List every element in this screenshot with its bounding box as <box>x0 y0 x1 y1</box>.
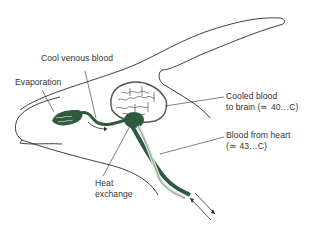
flow-arrow-down <box>195 193 215 214</box>
label-heat-exchange-line1: Heat <box>95 178 113 189</box>
head-outline-jaw <box>22 140 158 195</box>
label-cooled-blood-line2: to brain (≃ 40…C) <box>226 102 298 113</box>
label-blood-from-heart-line2: (≃ 43…C) <box>226 141 267 152</box>
label-evaporation: Evaporation <box>15 77 61 88</box>
label-cooled-blood-line1: Cooled blood <box>226 91 277 102</box>
leader-cooled-blood <box>165 97 224 106</box>
leader-heat-exchange <box>103 126 130 176</box>
label-cool-venous-blood: Cool venous blood <box>41 53 113 64</box>
leader-blood-heart <box>160 137 224 154</box>
leader-cool-venous <box>85 71 96 118</box>
head-diagram <box>0 0 322 234</box>
neck-vessels <box>132 126 190 198</box>
label-blood-from-heart-line1: Blood from heart <box>226 130 290 141</box>
leader-evaporation <box>42 90 54 112</box>
label-heat-exchange-line2: exchange <box>95 189 133 200</box>
diagram-canvas: Cool venous blood Evaporation Cooled blo… <box>0 0 322 234</box>
flow-arrow-up <box>190 198 211 220</box>
